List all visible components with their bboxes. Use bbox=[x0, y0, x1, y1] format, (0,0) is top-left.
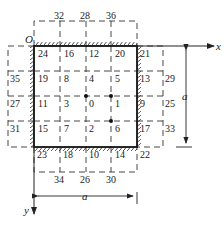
node-label: 11 bbox=[38, 98, 48, 109]
node-label: 2 bbox=[89, 123, 94, 134]
node-label: 12 bbox=[89, 48, 99, 59]
node-label: 5 bbox=[115, 73, 120, 84]
node-label: 31 bbox=[10, 123, 20, 134]
dimension-a-vertical: a bbox=[182, 90, 188, 102]
node-label: 33 bbox=[165, 123, 175, 134]
node-label: 36 bbox=[106, 10, 116, 21]
node-label: 1 bbox=[115, 98, 120, 109]
y-axis-label: y bbox=[23, 204, 29, 216]
node-label: 10 bbox=[89, 149, 99, 160]
node-label: 24 bbox=[38, 48, 48, 59]
node-label: 23 bbox=[37, 149, 47, 160]
node-label: 6 bbox=[115, 123, 120, 134]
node-label: 20 bbox=[115, 48, 125, 59]
node-label: 14 bbox=[115, 149, 125, 160]
node-label: 32 bbox=[54, 10, 64, 21]
x-axis-label: x bbox=[215, 40, 221, 52]
dimension-horizontal bbox=[38, 192, 137, 204]
node-label: 34 bbox=[54, 174, 64, 185]
node-label: 17 bbox=[140, 123, 150, 134]
node-label: 27 bbox=[10, 98, 20, 109]
grid-diagram: O x y a a 32 28 36 34 26 30 35 27 31 29 … bbox=[0, 0, 224, 226]
node-label: 3 bbox=[64, 98, 69, 109]
node-label: 18 bbox=[63, 149, 73, 160]
node-label: 21 bbox=[140, 48, 150, 59]
node-label: 7 bbox=[64, 123, 69, 134]
node-label: 9 bbox=[140, 98, 145, 109]
node-label: 35 bbox=[10, 73, 20, 84]
node-label: 26 bbox=[80, 174, 90, 185]
node-label: 8 bbox=[64, 73, 69, 84]
node-label: 19 bbox=[38, 73, 48, 84]
node-label: 28 bbox=[80, 10, 90, 21]
node-label: 30 bbox=[106, 174, 116, 185]
node-label: 25 bbox=[165, 98, 175, 109]
node-label: 4 bbox=[89, 73, 94, 84]
node-label: 29 bbox=[165, 73, 175, 84]
node-label: 13 bbox=[140, 73, 150, 84]
node-label: 22 bbox=[140, 149, 150, 160]
node-label: 0 bbox=[89, 98, 94, 109]
origin-label: O bbox=[25, 33, 33, 45]
node-label: 16 bbox=[64, 48, 74, 59]
node-label: 15 bbox=[38, 123, 48, 134]
dimension-a-horizontal: a bbox=[82, 190, 88, 202]
